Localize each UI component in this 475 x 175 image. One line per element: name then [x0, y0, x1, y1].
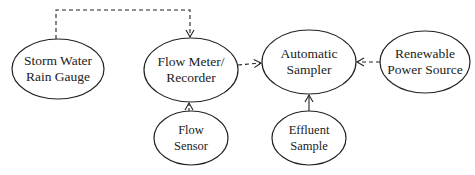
node-label-line2: Recorder — [157, 70, 224, 86]
node-label-line1: Renewable — [387, 46, 462, 62]
flow-diagram: Storm WaterRain Gauge Flow Meter/Recorde… — [0, 0, 475, 175]
node-flow-sensor: FlowSensor — [154, 111, 228, 165]
node-rain-gauge: Storm WaterRain Gauge — [12, 39, 104, 99]
node-label-line2: Sampler — [281, 62, 338, 78]
edge-rain-to-meter — [56, 10, 190, 39]
node-label-line1: Effluent — [289, 122, 330, 138]
node-sampler: AutomaticSampler — [262, 30, 356, 94]
node-label-line1: Flow Meter/ — [157, 54, 224, 70]
node-effluent-sample: EffluentSample — [272, 111, 346, 165]
node-label-line1: Automatic — [281, 46, 338, 62]
node-power-source: RenewablePower Source — [380, 31, 470, 93]
edge-meter-to-sampler — [238, 63, 261, 65]
node-label-line2: Power Source — [387, 62, 462, 78]
node-flow-meter: Flow Meter/Recorder — [144, 38, 238, 102]
node-label-line2: Sample — [289, 138, 330, 154]
node-label-line1: Storm Water — [24, 53, 92, 69]
node-label-line2: Rain Gauge — [24, 69, 92, 85]
node-label-line1: Flow — [174, 122, 208, 138]
node-label-line2: Sensor — [174, 138, 208, 154]
